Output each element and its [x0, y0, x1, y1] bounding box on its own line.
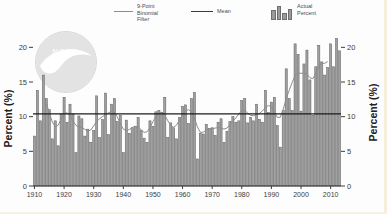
bar — [149, 121, 151, 186]
bar — [338, 51, 340, 186]
x-tick-label: 1940 — [116, 191, 132, 198]
bar — [184, 105, 186, 186]
percent-bar-chart: NOAA005510101515202019101920193019401950… — [0, 0, 387, 214]
bar — [235, 122, 237, 186]
bar — [253, 121, 255, 186]
bar — [335, 38, 337, 186]
bar — [84, 136, 86, 186]
bar — [90, 142, 92, 186]
bar — [291, 110, 293, 186]
bar — [244, 99, 246, 186]
x-tick-label: 1920 — [56, 191, 72, 198]
bar — [33, 136, 35, 186]
bar — [60, 114, 62, 186]
bar — [104, 93, 106, 186]
bar — [330, 44, 332, 186]
x-tick-label: 1970 — [204, 191, 220, 198]
bar — [279, 147, 281, 186]
y-tick-label-left: 20 — [19, 43, 27, 52]
bar — [288, 99, 290, 186]
bar — [134, 126, 136, 186]
bar — [51, 139, 53, 186]
bar — [238, 121, 240, 186]
bar — [122, 153, 124, 186]
x-tick-label: 1950 — [145, 191, 161, 198]
y-tick-label-right: 5 — [347, 147, 351, 156]
y-tick-label-left: 5 — [23, 147, 27, 156]
bar — [102, 119, 104, 186]
x-tick-label: 1910 — [27, 191, 43, 198]
bar — [87, 129, 89, 186]
chart-figure: NOAA005510101515202019101920193019401950… — [0, 0, 387, 214]
bar — [179, 117, 181, 186]
legend-item-actual-percent: Actual Percent — [271, 3, 327, 20]
bar — [333, 67, 335, 186]
bar — [155, 112, 157, 186]
legend-item-binomial-filter: 9-Point Binomial Filter — [114, 3, 167, 23]
mini-bars-swatch-icon — [271, 7, 292, 20]
bar — [176, 139, 178, 186]
y-axis-label-right: Percent (%) — [367, 81, 380, 145]
bar — [75, 153, 77, 186]
legend-label: 9-Point Binomial Filter — [137, 3, 167, 23]
y-tick-label-right: 10 — [347, 112, 355, 121]
bar — [110, 104, 112, 186]
bar — [303, 64, 305, 186]
bar — [66, 122, 68, 186]
bar — [223, 142, 225, 186]
x-tick-label: 2000 — [293, 191, 309, 198]
bar — [152, 126, 154, 186]
bar — [54, 121, 56, 186]
x-tick-label: 1930 — [86, 191, 102, 198]
bar — [99, 137, 101, 186]
bar — [232, 117, 234, 186]
bar — [214, 135, 216, 186]
legend: 9-Point Binomial Filter Mean Actual Perc… — [114, 3, 327, 23]
bar — [81, 119, 83, 186]
bar — [167, 137, 169, 186]
bar — [39, 121, 41, 186]
filter-line-swatch-icon — [114, 11, 133, 12]
bar — [294, 44, 296, 186]
bar — [48, 110, 50, 186]
y-tick-label-left: 15 — [19, 78, 27, 87]
bar — [229, 122, 231, 186]
bar — [181, 106, 183, 186]
y-tick-label-left: 10 — [19, 112, 27, 121]
y-tick-label-right: 15 — [347, 78, 355, 87]
bar — [205, 124, 207, 186]
page-edge-bottom — [0, 212, 387, 214]
bar — [321, 62, 323, 186]
bar — [276, 126, 278, 186]
bar — [170, 123, 172, 186]
x-tick-label: 1960 — [175, 191, 191, 198]
legend-label: Mean — [217, 8, 247, 15]
bar — [202, 134, 204, 186]
bar — [264, 90, 266, 186]
bar — [193, 92, 195, 186]
bar — [282, 110, 284, 186]
bar — [161, 113, 163, 186]
bar — [258, 119, 260, 186]
bar — [107, 135, 109, 186]
bar — [217, 122, 219, 186]
bar — [164, 97, 166, 186]
bar — [315, 67, 317, 186]
bar — [256, 104, 258, 186]
bar — [309, 80, 311, 186]
bar — [327, 67, 329, 186]
y-tick-label-left: 0 — [23, 182, 27, 191]
bar — [140, 131, 142, 186]
bar — [270, 102, 272, 186]
bar — [116, 122, 118, 186]
bar — [300, 111, 302, 186]
bar — [306, 50, 308, 186]
bar — [146, 142, 148, 186]
bar — [267, 113, 269, 186]
x-axis-ticks: 1910192019301940195019601970198019902000… — [27, 186, 339, 198]
bar — [247, 123, 249, 186]
bar — [158, 110, 160, 186]
bar — [131, 128, 133, 186]
bar — [196, 159, 198, 186]
bar — [250, 117, 252, 186]
